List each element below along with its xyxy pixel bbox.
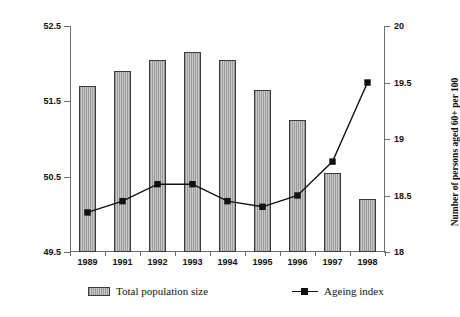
x-axis-label: 1992 bbox=[147, 257, 167, 267]
bar-swatch-icon bbox=[88, 287, 110, 296]
data-point-marker bbox=[259, 204, 265, 210]
ageing-index-line bbox=[88, 83, 368, 213]
x-axis-label: 1989 bbox=[77, 257, 97, 267]
right-tick-label: 18 bbox=[394, 248, 404, 257]
x-axis-label: 1993 bbox=[182, 257, 202, 267]
data-point-marker bbox=[84, 209, 90, 215]
data-point-marker bbox=[364, 79, 370, 85]
legend-item-total-population: Total population size bbox=[88, 285, 208, 297]
data-point-marker bbox=[119, 198, 125, 204]
x-tick bbox=[385, 251, 386, 256]
data-point-marker bbox=[154, 181, 160, 187]
legend-label-total-population: Total population size bbox=[116, 285, 208, 297]
x-axis-label: 1998 bbox=[357, 257, 377, 267]
x-axis-label: 1991 bbox=[112, 257, 132, 267]
x-axis-label: 1995 bbox=[252, 257, 272, 267]
right-axis-title: Number of persons aged 60+ per 100 bbox=[450, 78, 460, 227]
data-point-marker bbox=[329, 158, 335, 164]
legend-label-ageing-index: Ageing index bbox=[324, 285, 384, 297]
x-axis-label: 1996 bbox=[287, 257, 307, 267]
x-axis-label: 1997 bbox=[322, 257, 342, 267]
chart-legend: Total population size Ageing index bbox=[70, 282, 385, 300]
right-tick-label: 19.5 bbox=[394, 78, 412, 87]
x-axis-label: 1994 bbox=[217, 257, 237, 267]
right-tick-label: 18.5 bbox=[394, 191, 412, 200]
plot-area: 49.550.551.552.5 1818.51919.520 19891991… bbox=[70, 26, 385, 252]
data-point-marker bbox=[294, 192, 300, 198]
left-tick-label: 49.5 bbox=[43, 248, 61, 257]
data-point-marker bbox=[189, 181, 195, 187]
line-marker-swatch-icon bbox=[292, 286, 318, 296]
right-tick-label: 19 bbox=[394, 135, 404, 144]
right-tick-label: 20 bbox=[394, 22, 404, 31]
legend-item-ageing-index: Ageing index bbox=[292, 285, 384, 297]
data-point-marker bbox=[224, 198, 230, 204]
left-tick-label: 52.5 bbox=[43, 22, 61, 31]
left-tick-label: 50.5 bbox=[43, 172, 61, 181]
line-series bbox=[70, 26, 385, 252]
left-tick-label: 51.5 bbox=[43, 97, 61, 106]
